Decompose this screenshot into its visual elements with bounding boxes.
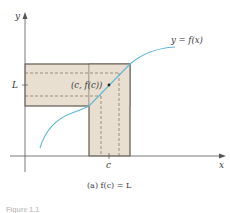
c-label: c: [106, 160, 111, 170]
y-axis-arrow-icon: [23, 12, 28, 19]
figure-label: Figure 1.1: [6, 206, 39, 213]
continuity-diagram: y x L c (c, f(c)) y = f(x) (a) f(c) = L …: [0, 0, 230, 213]
point-c-fc: [108, 84, 111, 87]
x-axis-label: x: [219, 160, 224, 170]
point-label: (c, f(c)): [71, 80, 102, 90]
curve-label: y = f(x): [170, 35, 203, 45]
L-label: L: [11, 80, 18, 90]
y-axis-label: y: [14, 11, 21, 21]
caption: (a) f(c) = L: [87, 181, 132, 190]
x-axis-arrow-icon: [219, 154, 226, 159]
